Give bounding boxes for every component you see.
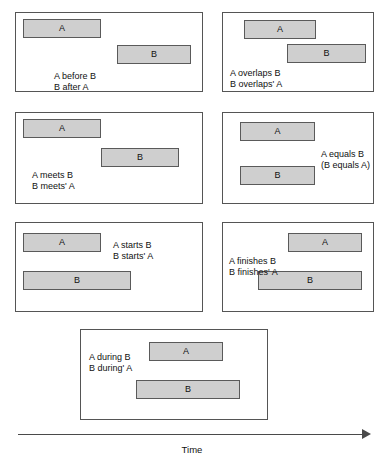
interval-bar-a: A bbox=[23, 233, 101, 252]
interval-bar-label: A bbox=[59, 24, 65, 33]
relation-caption-line: A during B bbox=[89, 352, 132, 363]
relation-caption-starts: A starts BB starts' A bbox=[113, 240, 153, 262]
relation-panel-during: ABA during BB during' A bbox=[80, 329, 268, 420]
allen-interval-relations-diagram: ABA before BB after AABA overlaps BB ove… bbox=[0, 0, 384, 464]
relation-caption-line: A finishes B bbox=[229, 256, 278, 267]
relation-caption-finishes: A finishes BB finishes' A bbox=[229, 256, 278, 278]
relation-panel-starts: ABA starts BB starts' A bbox=[15, 222, 203, 312]
relation-caption-line: B overlaps' A bbox=[230, 79, 282, 90]
time-axis-label: Time bbox=[0, 444, 384, 455]
interval-bar-b: B bbox=[287, 44, 366, 63]
interval-bar-label: B bbox=[74, 276, 80, 285]
relation-caption-line: B meets' A bbox=[32, 181, 75, 192]
interval-bar-label: A bbox=[59, 124, 65, 133]
relation-caption-line: A equals B bbox=[321, 149, 370, 160]
interval-bar-a: A bbox=[288, 233, 362, 252]
interval-bar-label: B bbox=[323, 49, 329, 58]
relation-caption-equals: A equals B(B equals A) bbox=[321, 149, 370, 171]
interval-bar-a: A bbox=[244, 20, 316, 39]
relation-caption-overlaps: A overlaps BB overlaps' A bbox=[230, 68, 282, 90]
interval-bar-label: A bbox=[277, 25, 283, 34]
interval-bar-label: A bbox=[322, 238, 328, 247]
relation-caption-line: A starts B bbox=[113, 240, 153, 251]
interval-bar-b: B bbox=[240, 166, 315, 185]
interval-bar-b: B bbox=[136, 380, 240, 399]
interval-bar-label: B bbox=[137, 153, 143, 162]
interval-bar-label: B bbox=[274, 171, 280, 180]
interval-bar-label: A bbox=[183, 347, 189, 356]
interval-bar-b: B bbox=[117, 45, 191, 64]
relation-caption-line: A meets B bbox=[32, 170, 75, 181]
relation-caption-line: B finishes' A bbox=[229, 267, 278, 278]
interval-bar-b: B bbox=[23, 271, 131, 290]
time-axis-arrowhead-icon bbox=[362, 429, 371, 439]
interval-bar-a: A bbox=[149, 342, 223, 361]
interval-bar-b: B bbox=[101, 148, 179, 167]
interval-bar-a: A bbox=[240, 122, 315, 141]
relation-panel-overlaps: ABA overlaps BB overlaps' A bbox=[222, 12, 374, 92]
interval-bar-a: A bbox=[23, 19, 101, 38]
interval-bar-label: B bbox=[307, 276, 313, 285]
time-axis-line bbox=[18, 434, 368, 435]
relation-panel-finishes: ABA finishes BB finishes' A bbox=[222, 222, 374, 312]
interval-bar-label: B bbox=[151, 50, 157, 59]
interval-bar-label: A bbox=[274, 127, 280, 136]
relation-panel-equals: ABA equals B(B equals A) bbox=[222, 112, 374, 204]
relation-caption-line: B after A bbox=[54, 82, 96, 93]
relation-caption-line: A before B bbox=[54, 71, 96, 82]
interval-bar-label: B bbox=[185, 385, 191, 394]
interval-bar-label: A bbox=[59, 238, 65, 247]
interval-bar-a: A bbox=[23, 119, 101, 138]
relation-caption-line: B during' A bbox=[89, 363, 132, 374]
relation-caption-during: A during BB during' A bbox=[89, 352, 132, 374]
relation-caption-line: (B equals A) bbox=[321, 160, 370, 171]
relation-caption-line: B starts' A bbox=[113, 251, 153, 262]
relation-panel-before-after: ABA before BB after A bbox=[15, 12, 203, 92]
relation-caption-before-after: A before BB after A bbox=[54, 71, 96, 93]
relation-caption-line: A overlaps B bbox=[230, 68, 282, 79]
relation-panel-meets: ABA meets BB meets' A bbox=[15, 112, 203, 204]
relation-caption-meets: A meets BB meets' A bbox=[32, 170, 75, 192]
